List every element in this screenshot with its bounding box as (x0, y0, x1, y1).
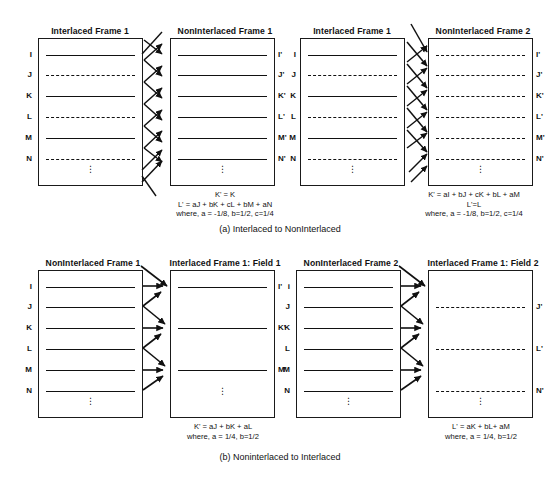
ellipsis-icon: ⋮ (476, 167, 485, 171)
scanline (46, 159, 135, 160)
section-caption-a: (a) Interlaced to NonInterlaced (0, 224, 560, 234)
row-label: I' (536, 51, 554, 59)
formula-line: K' = aI + bJ + cK + bL + aM (388, 190, 560, 200)
frame-source-b2: ⋮ (296, 270, 401, 418)
scanline (308, 75, 397, 76)
row-label: M (272, 366, 290, 374)
scanline (46, 55, 135, 56)
row-label: N (14, 155, 32, 163)
row-label: M (14, 134, 32, 142)
scanline (436, 96, 525, 97)
ellipsis-icon: ⋮ (348, 167, 357, 171)
frame-title-source-b2: NonInterlaced Frame 2 (288, 258, 414, 268)
row-label: I (14, 283, 32, 291)
formula-a1: K' = K L' = aJ + bK + cL + bM + aN where… (130, 190, 320, 219)
formula-line: K' = aJ + bK + aL (140, 422, 306, 432)
row-label: J (14, 71, 32, 79)
figure-root: { "figure": { "sections": [ { "id": "a",… (0, 0, 560, 479)
section-b: NonInterlaced Frame 1 ⋮ I J K L M N (0, 240, 560, 479)
scanline (178, 138, 267, 139)
scanline (46, 96, 135, 97)
section-a: Interlaced Frame 1 ⋮ I J K L M N (0, 0, 560, 240)
row-label: L' (536, 113, 554, 121)
frame-title-source-b1: NonInterlaced Frame 1 (30, 258, 156, 268)
section-caption-b: (b) Noninterlaced to Interlaced (0, 452, 560, 462)
row-label: J' (536, 303, 554, 311)
scanline (308, 159, 397, 160)
scanline (178, 328, 267, 329)
scanline (178, 75, 267, 76)
ellipsis-icon: ⋮ (218, 389, 227, 393)
row-label: N' (536, 155, 554, 163)
row-label: J (272, 303, 290, 311)
scanline (46, 391, 135, 392)
scanline (308, 96, 397, 97)
row-label: i (272, 283, 290, 291)
ellipsis-icon: ⋮ (218, 167, 227, 171)
formula-line: K' = K (130, 190, 320, 200)
row-label: L (278, 113, 296, 121)
frame-target-b1: ⋮ (170, 270, 275, 418)
formula-line: where, a = 1/4, b=1/2 (398, 432, 560, 442)
formula-line: L'=L (388, 200, 560, 210)
row-label: N' (536, 387, 554, 395)
scanline (178, 159, 267, 160)
scanline (436, 391, 525, 392)
row-label: L' (536, 345, 554, 353)
scanline (304, 287, 393, 288)
row-label: N (278, 155, 296, 163)
row-label: K (278, 92, 296, 100)
scanline (46, 138, 135, 139)
row-label: I (278, 51, 296, 59)
scanline (308, 138, 397, 139)
row-label: N (14, 387, 32, 395)
row-label: K (14, 324, 32, 332)
scanline (436, 159, 525, 160)
row-label: M' (536, 134, 554, 142)
ellipsis-icon: ⋮ (86, 399, 95, 403)
frame-title-target-b1: Interlaced Frame 1: Field 1 (152, 258, 298, 268)
row-label: J' (536, 71, 554, 79)
ellipsis-icon: ⋮ (476, 399, 485, 403)
row-label: L (272, 345, 290, 353)
frame-target-b2: ⋮ (428, 270, 533, 418)
scanline (436, 55, 525, 56)
row-label: N (272, 387, 290, 395)
formula-line: where, a = -1/8, b=1/2, c=1/4 (130, 209, 320, 219)
formula-line: L' = aK + bL+ aM (398, 422, 560, 432)
formula-b1: K' = aJ + bK + aL where, a = 1/4, b=1/2 (140, 422, 306, 441)
formula-line: where, a = 1/4, b=1/2 (140, 432, 306, 442)
scanline (46, 328, 135, 329)
row-label: M (14, 366, 32, 374)
formula-b2: L' = aK + bL+ aM where, a = 1/4, b=1/2 (398, 422, 560, 441)
scanline (304, 328, 393, 329)
frame-title-source-a1: Interlaced Frame 1 (32, 26, 148, 36)
ellipsis-icon: ⋮ (86, 167, 95, 171)
scanline (308, 117, 397, 118)
frame-source-a1: ⋮ (38, 38, 143, 186)
frame-title-target-a2: NonInterlaced Frame 2 (420, 26, 546, 36)
scanline (436, 75, 525, 76)
scanline (304, 370, 393, 371)
scanline (436, 138, 525, 139)
scanline (178, 370, 267, 371)
frame-title-source-a2: Interlaced Frame 1 (294, 26, 410, 36)
scanline (304, 349, 393, 350)
scanline (436, 307, 525, 308)
scanline (46, 117, 135, 118)
scanline (304, 307, 393, 308)
scanline (178, 96, 267, 97)
row-label: K (272, 324, 290, 332)
formula-line: where, a = -1/8, b=1/2, c=1/4 (388, 209, 560, 219)
frame-source-a2: ⋮ (300, 38, 405, 186)
scanline (46, 370, 135, 371)
scanline (178, 117, 267, 118)
scanline (178, 287, 267, 288)
scanline (46, 349, 135, 350)
frame-target-a2: ⋮ (428, 38, 533, 186)
row-label: M (278, 134, 296, 142)
scanline (436, 117, 525, 118)
scanline (308, 55, 397, 56)
row-label: L (14, 113, 32, 121)
scanline (178, 55, 267, 56)
